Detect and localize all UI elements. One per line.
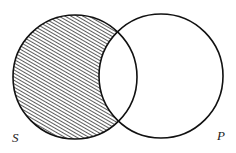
venn-diagram bbox=[0, 0, 236, 153]
label-s: S bbox=[12, 131, 19, 144]
label-p: P bbox=[217, 129, 225, 142]
shaded-region-s-only bbox=[0, 0, 236, 153]
